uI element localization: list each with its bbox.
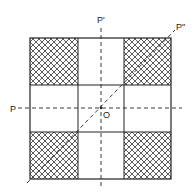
center-point — [100, 107, 102, 109]
label-center-O: O — [103, 110, 110, 120]
label-P: P — [10, 104, 16, 114]
hatched-cell-top-left — [30, 38, 78, 85]
symmetry-diagram: P P' P" O — [0, 0, 194, 195]
label-P-prime: P' — [97, 15, 105, 25]
hatched-cell-top-right — [124, 38, 171, 85]
hatched-cell-bottom-right — [124, 132, 171, 179]
label-P-double-prime: P" — [176, 22, 185, 32]
